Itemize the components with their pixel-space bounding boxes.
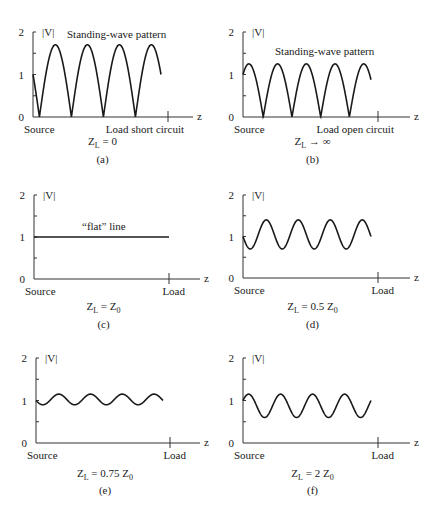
load-impedance-caption: ZL = 0 xyxy=(88,135,117,150)
y-tick-label: 0 xyxy=(229,437,235,449)
voltage-curve xyxy=(36,394,163,405)
load-impedance-caption: ZL = Z0 xyxy=(86,300,120,315)
source-label: Source xyxy=(24,123,55,135)
panel-label: (f) xyxy=(307,484,318,497)
panel-a: 012|V|zSourceLoad short circuitStanding-… xyxy=(19,26,203,166)
y-tick-label: 2 xyxy=(229,26,235,38)
source-label: Source xyxy=(27,449,58,461)
y-tick-label: 2 xyxy=(20,189,26,201)
voltage-curve xyxy=(243,64,371,117)
load-label: Load xyxy=(162,285,185,297)
y-tick-label: 0 xyxy=(229,111,235,123)
y-tick-label: 1 xyxy=(229,69,235,81)
y-tick-label: 1 xyxy=(22,395,28,407)
standing-wave-figure: 012|V|zSourceLoad short circuitStanding-… xyxy=(0,0,435,517)
y-tick-label: 1 xyxy=(229,395,235,407)
annotation: “flat” line xyxy=(82,220,126,232)
source-label: Source xyxy=(234,123,265,135)
x-axis-label: z xyxy=(204,436,209,448)
y-axis-label: |V| xyxy=(45,352,57,364)
y-axis-label: |V| xyxy=(252,26,264,38)
y-axis-label: |V| xyxy=(43,189,55,201)
load-label: Load xyxy=(371,449,394,461)
y-axis-label: |V| xyxy=(42,26,54,38)
voltage-curve xyxy=(243,394,371,417)
annotation: Standing-wave pattern xyxy=(275,45,375,57)
y-tick-label: 2 xyxy=(229,189,235,201)
load-label: Load open circuit xyxy=(316,123,394,135)
panel-b: 012|V|zSourceLoad open circuitStanding-w… xyxy=(229,26,420,166)
panel-label: (c) xyxy=(97,318,110,331)
source-label: Source xyxy=(25,285,56,297)
panel-d: 012|V|zSourceLoadZL = 0.5 Z0(d) xyxy=(229,189,420,331)
load-label: Load xyxy=(371,284,394,296)
load-label: Load short circuit xyxy=(106,123,184,135)
panel-f: 012|V|zSourceLoadZL = 2 Z0(f) xyxy=(229,352,420,497)
y-tick-label: 2 xyxy=(22,352,28,364)
panel-e: 012|V|zSourceLoadZL = 0.75 Z0(e) xyxy=(22,352,210,497)
source-label: Source xyxy=(234,449,265,461)
y-axis-label: |V| xyxy=(252,189,264,201)
voltage-curve xyxy=(243,220,371,249)
panel-c: 012|V|zSourceLoad“flat” lineZL = Z0(c) xyxy=(20,189,210,331)
y-tick-label: 0 xyxy=(229,272,235,284)
annotation: Standing-wave pattern xyxy=(67,28,167,40)
load-label: Load xyxy=(163,449,186,461)
load-impedance-caption: ZL = 0.75 Z0 xyxy=(77,467,133,482)
voltage-curve xyxy=(33,45,161,117)
x-axis-label: z xyxy=(204,272,209,284)
y-tick-label: 1 xyxy=(229,231,235,243)
y-axis-label: |V| xyxy=(252,352,264,364)
y-tick-label: 1 xyxy=(20,231,26,243)
x-axis-label: z xyxy=(197,110,202,122)
source-label: Source xyxy=(234,284,265,296)
y-tick-label: 0 xyxy=(19,111,25,123)
x-axis-label: z xyxy=(414,110,419,122)
load-impedance-caption: ZL = 2 Z0 xyxy=(291,467,333,482)
y-tick-label: 2 xyxy=(19,26,25,38)
x-axis-label: z xyxy=(414,271,419,283)
x-axis-label: z xyxy=(414,436,419,448)
load-impedance-caption: ZL = 0.5 Z0 xyxy=(287,300,338,315)
panel-label: (e) xyxy=(99,484,112,497)
panel-label: (a) xyxy=(96,153,109,166)
panel-label: (d) xyxy=(306,318,319,331)
load-impedance-caption: ZL → ∞ xyxy=(295,135,331,150)
y-tick-label: 0 xyxy=(20,273,26,285)
panel-label: (b) xyxy=(306,153,319,166)
y-tick-label: 1 xyxy=(19,69,25,81)
y-tick-label: 0 xyxy=(22,437,28,449)
y-tick-label: 2 xyxy=(229,352,235,364)
